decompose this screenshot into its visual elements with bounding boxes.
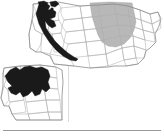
northern-plains-gray-range — [90, 2, 136, 47]
main-map-contiguous-united-states — [28, 0, 164, 70]
figure-root — [0, 0, 164, 137]
great-basin-dark-range — [5, 66, 50, 97]
inset-map-western-united-states — [0, 62, 70, 124]
panel-divider — [68, 66, 69, 122]
bottom-horizontal-rule — [3, 130, 161, 131]
